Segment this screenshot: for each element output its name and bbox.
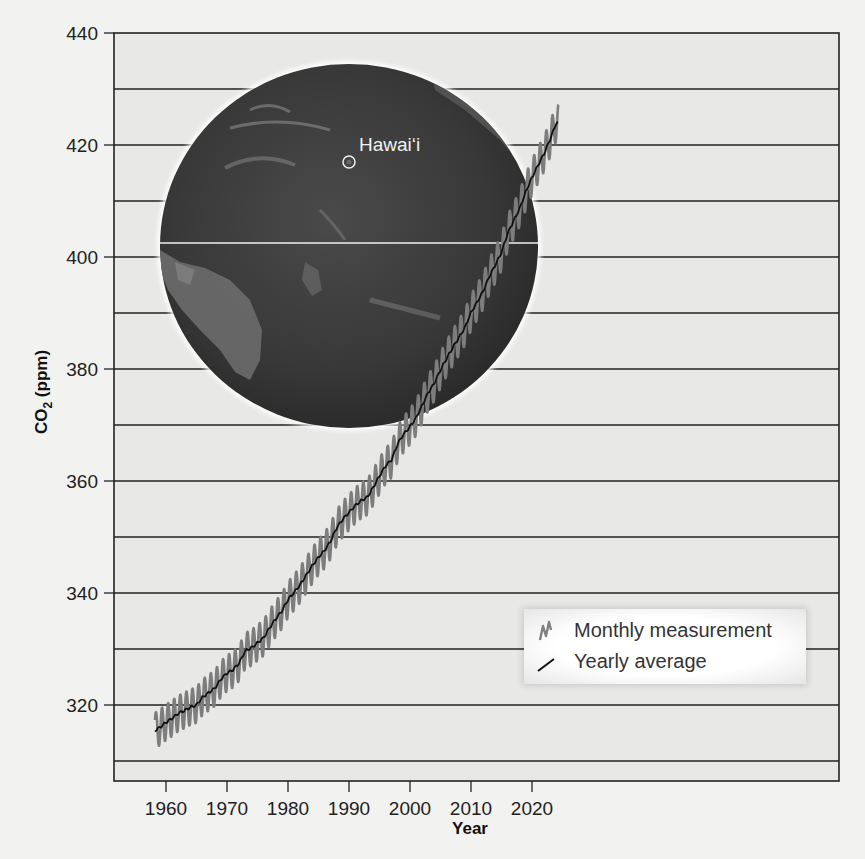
globe-inset bbox=[157, 61, 541, 431]
x-tick-label: 1980 bbox=[267, 798, 309, 819]
x-axis-title: Year bbox=[452, 819, 488, 838]
y-tick-label: 380 bbox=[66, 359, 98, 380]
x-tick-label: 2000 bbox=[389, 798, 431, 819]
x-tick-label: 1970 bbox=[206, 798, 248, 819]
y-tick-label: 360 bbox=[66, 471, 98, 492]
x-tick-label: 2020 bbox=[511, 798, 553, 819]
legend-label-yearly: Yearly average bbox=[574, 650, 707, 673]
yearly-line-icon bbox=[534, 649, 566, 675]
y-tick-label: 420 bbox=[66, 135, 98, 156]
monthly-zigzag-icon bbox=[534, 618, 566, 644]
y-tick-label: 440 bbox=[66, 23, 98, 44]
y-tick-label: 320 bbox=[66, 695, 98, 716]
co2-chart: 320340360380400420440 196019701980199020… bbox=[0, 0, 865, 859]
legend-item-monthly: Monthly measurement bbox=[534, 615, 796, 646]
x-tick-label: 2010 bbox=[450, 798, 492, 819]
legend: Monthly measurement Yearly average bbox=[524, 609, 806, 684]
y-tick-label: 400 bbox=[66, 247, 98, 268]
legend-item-yearly: Yearly average bbox=[534, 646, 796, 677]
x-tick-label: 1990 bbox=[328, 798, 370, 819]
legend-label-monthly: Monthly measurement bbox=[574, 619, 772, 642]
y-tick-label: 340 bbox=[66, 583, 98, 604]
x-tick-label: 1960 bbox=[145, 798, 187, 819]
hawaii-label: Hawaiʻi bbox=[359, 134, 420, 156]
y-axis: 320340360380400420440 bbox=[66, 23, 114, 716]
y-axis-title: CO2 (ppm) bbox=[32, 350, 55, 434]
x-axis: 1960197019801990200020102020 bbox=[145, 781, 553, 819]
